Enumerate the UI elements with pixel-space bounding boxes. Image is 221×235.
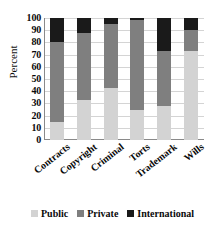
bar-column[interactable] bbox=[104, 18, 118, 140]
bar-segment-private[interactable] bbox=[50, 42, 64, 121]
y-tick-label: 60 bbox=[3, 62, 41, 72]
y-tick-label: 30 bbox=[3, 98, 41, 108]
y-tick-label: 40 bbox=[3, 86, 41, 96]
stacked-bar-chart: Percent 1009080706050403020100 Contracts… bbox=[0, 0, 221, 235]
bar-series-group bbox=[44, 18, 204, 140]
y-tick-label: 10 bbox=[3, 123, 41, 133]
bar-segment-international[interactable] bbox=[77, 18, 91, 33]
bar-segment-international[interactable] bbox=[50, 18, 64, 42]
bar-column[interactable] bbox=[130, 18, 144, 140]
y-axis-tick-labels: 1009080706050403020100 bbox=[0, 18, 41, 140]
bar-segment-international[interactable] bbox=[184, 18, 198, 30]
legend-item-public[interactable]: Public bbox=[31, 208, 68, 219]
legend-label: International bbox=[137, 208, 194, 219]
chart-legend: PublicPrivateInternational bbox=[6, 208, 219, 219]
bar-column[interactable] bbox=[50, 18, 64, 140]
bar-column[interactable] bbox=[157, 18, 171, 140]
plot-area bbox=[44, 18, 204, 140]
y-tick-label: 80 bbox=[3, 37, 41, 47]
bar-segment-public[interactable] bbox=[130, 110, 144, 141]
bar-segment-private[interactable] bbox=[157, 51, 171, 106]
legend-label: Private bbox=[87, 208, 118, 219]
y-tick-label: 90 bbox=[3, 25, 41, 35]
legend-swatch-icon bbox=[127, 210, 134, 217]
bar-column[interactable] bbox=[184, 18, 198, 140]
y-tick-label: 70 bbox=[3, 50, 41, 60]
bar-segment-public[interactable] bbox=[77, 100, 91, 140]
bar-segment-public[interactable] bbox=[50, 122, 64, 140]
bar-segment-private[interactable] bbox=[184, 30, 198, 51]
bar-segment-public[interactable] bbox=[184, 51, 198, 140]
legend-label: Public bbox=[41, 208, 68, 219]
bar-segment-public[interactable] bbox=[104, 88, 118, 140]
y-tick-label: 0 bbox=[3, 135, 41, 145]
bar-segment-private[interactable] bbox=[77, 33, 91, 100]
legend-swatch-icon bbox=[77, 210, 84, 217]
legend-item-international[interactable]: International bbox=[127, 208, 194, 219]
bar-segment-public[interactable] bbox=[157, 106, 171, 140]
legend-item-private[interactable]: Private bbox=[77, 208, 118, 219]
legend-swatch-icon bbox=[31, 210, 38, 217]
bar-segment-international[interactable] bbox=[157, 18, 171, 51]
bar-segment-private[interactable] bbox=[130, 20, 144, 109]
x-axis-category-labels: ContractsCopyrightCriminalTortsTrademark… bbox=[44, 141, 204, 191]
bar-column[interactable] bbox=[77, 18, 91, 140]
bar-segment-private[interactable] bbox=[104, 24, 118, 87]
y-tick-label: 100 bbox=[3, 13, 41, 23]
y-tick-label: 50 bbox=[3, 74, 41, 84]
y-tick-label: 20 bbox=[3, 111, 41, 121]
